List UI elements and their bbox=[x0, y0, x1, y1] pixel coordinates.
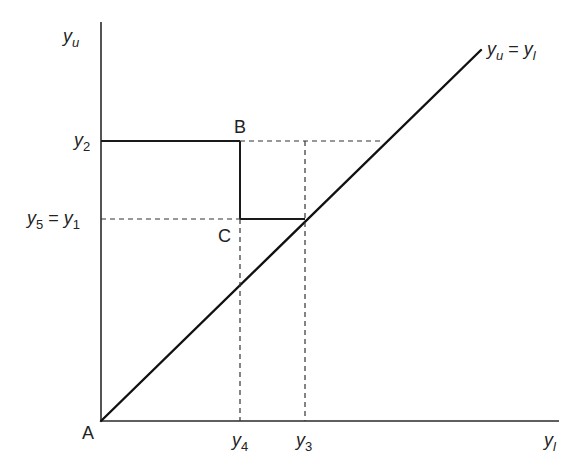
x-axis-label: yl bbox=[544, 431, 556, 449]
point-b-label: B bbox=[234, 118, 246, 136]
y-axis-label-base: y bbox=[63, 26, 72, 46]
diag-rhs-sub: l bbox=[533, 48, 536, 63]
y5-sub: 5 bbox=[36, 217, 43, 232]
y1-sub: 1 bbox=[73, 217, 80, 232]
y5-y1-tick-label: y5 = y1 bbox=[27, 209, 80, 227]
diagonal-label: yu = yl bbox=[487, 40, 536, 58]
y3-base: y bbox=[296, 430, 305, 450]
equals-sign: = bbox=[48, 208, 59, 228]
y-axis-label: yu bbox=[63, 27, 79, 45]
y2-tick-label: y2 bbox=[74, 131, 90, 149]
y3-sub: 3 bbox=[305, 439, 312, 454]
y3-tick-label: y3 bbox=[296, 431, 312, 449]
diag-lhs-sub: u bbox=[496, 48, 503, 63]
point-c-label: C bbox=[218, 227, 231, 245]
y4-base: y bbox=[232, 430, 241, 450]
point-a-label: A bbox=[82, 424, 94, 442]
diagonal-line bbox=[101, 50, 481, 421]
x-axis-label-base: y bbox=[544, 430, 553, 450]
y-axis-label-sub: u bbox=[72, 35, 79, 50]
diag-lhs-base: y bbox=[487, 39, 496, 59]
y4-sub: 4 bbox=[241, 439, 248, 454]
y4-tick-label: y4 bbox=[232, 431, 248, 449]
diag-equals-sign: = bbox=[508, 39, 519, 59]
diagram-canvas bbox=[0, 0, 583, 475]
y2-base: y bbox=[74, 130, 83, 150]
y2-sub: 2 bbox=[83, 139, 90, 154]
diag-rhs-base: y bbox=[524, 39, 533, 59]
y5-base: y bbox=[27, 208, 36, 228]
y1-base: y bbox=[64, 208, 73, 228]
x-axis-label-sub: l bbox=[553, 439, 556, 454]
